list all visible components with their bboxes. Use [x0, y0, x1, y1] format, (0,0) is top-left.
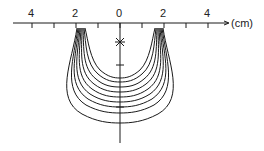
axis-unit-label: (cm) — [231, 18, 253, 29]
tick-label-right-4: 4 — [204, 8, 210, 19]
horizontal-axis — [13, 21, 229, 28]
vertical-axis — [116, 23, 124, 143]
tick-label-origin: 0 — [116, 8, 122, 19]
tick-label-left-4: 4 — [28, 8, 34, 19]
tick-label-right-2: 2 — [160, 8, 166, 19]
isodose-diagram — [0, 0, 264, 151]
tick-label-left-2: 2 — [72, 8, 78, 19]
